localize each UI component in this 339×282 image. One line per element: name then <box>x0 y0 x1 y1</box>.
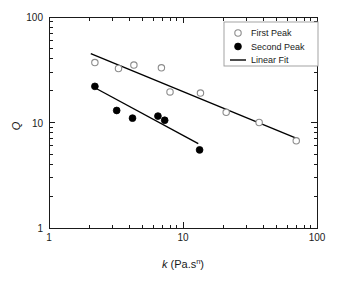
x-axis-label-unit-open: (Pa.s <box>167 258 196 270</box>
legend-label: Linear Fit <box>251 55 289 65</box>
data-point-open <box>92 59 98 65</box>
data-point-open <box>115 65 121 71</box>
data-point-open <box>158 65 164 71</box>
chart-legend: First PeakSecond PeakLinear Fit <box>224 22 318 66</box>
data-point-filled <box>196 146 203 153</box>
legend-label: First Peak <box>251 28 292 38</box>
x-tick-label: 1 <box>46 232 52 243</box>
y-tick-label: 100 <box>26 12 43 23</box>
data-point-open <box>167 89 173 95</box>
data-point-filled <box>155 113 162 120</box>
x-tick-label: 100 <box>309 232 326 243</box>
data-point-filled <box>129 115 136 122</box>
log-log-scatter-chart: 110100110100 Q k (Pa.sn) First PeakSecon… <box>0 0 339 282</box>
legend-label: Second Peak <box>251 42 305 52</box>
y-tick-label: 10 <box>32 118 44 129</box>
x-tick-label: 10 <box>177 232 189 243</box>
y-axis-label: Q <box>10 121 22 130</box>
legend-marker-filled-circle <box>235 43 242 50</box>
data-point-open <box>293 138 299 144</box>
data-point-open <box>256 119 262 125</box>
figure-container: 110100110100 Q k (Pa.sn) First PeakSecon… <box>0 0 339 282</box>
data-point-open <box>131 62 137 68</box>
data-point-open <box>197 90 203 96</box>
data-point-open <box>223 109 229 115</box>
data-point-filled <box>113 107 120 114</box>
x-axis-label-unit-close: ) <box>200 258 204 270</box>
y-tick-label: 1 <box>37 223 43 234</box>
data-point-filled <box>161 117 168 124</box>
legend-marker-open-circle <box>235 30 241 36</box>
data-point-filled <box>91 83 98 90</box>
